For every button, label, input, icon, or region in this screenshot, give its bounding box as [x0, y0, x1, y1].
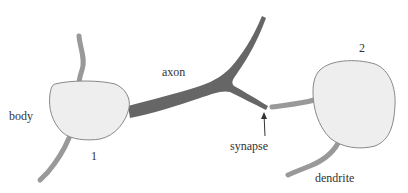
label-axon: axon: [162, 65, 185, 79]
label-neuron-1: 1: [91, 149, 97, 163]
axon: [128, 16, 268, 118]
neuron-2-lower-dendrite: [288, 137, 341, 175]
neuron-1-upper-dendrite: [79, 36, 83, 84]
neuron-diagram: body axon 1 2 synapse dendrite: [0, 0, 408, 193]
label-synapse: synapse: [230, 139, 268, 153]
label-neuron-2: 2: [359, 41, 365, 55]
neuron-2-receiving-dendrite: [272, 100, 314, 107]
label-dendrite: dendrite: [315, 171, 354, 185]
synapse-arrow-head: [261, 112, 267, 119]
neuron-2-body: [313, 61, 395, 148]
neuron-1-lower-dendrite: [40, 138, 69, 180]
neuron-1-body: [50, 81, 130, 140]
label-body: body: [9, 109, 33, 123]
